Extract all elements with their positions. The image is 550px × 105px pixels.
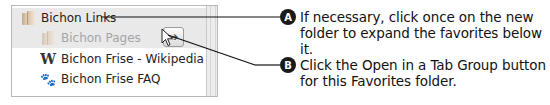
callout-text-b: Click the Open in a Tab Group button for… [300, 57, 546, 89]
callout-text-a: If necessary, click once on the new fold… [300, 9, 550, 57]
callout-badge-a: A [280, 9, 296, 25]
callout-badge-b: B [280, 57, 296, 73]
